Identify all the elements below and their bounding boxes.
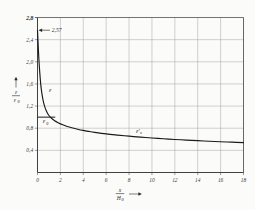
y-tick-label: 1,2: [26, 103, 33, 109]
y-tick-label: 0,4: [26, 147, 33, 153]
peak-value-label: 2,57: [52, 27, 62, 33]
x-tick-label: 10: [149, 177, 155, 183]
x-tick-label: 12: [172, 177, 178, 183]
x-tick-label: 4: [82, 177, 85, 183]
x-tick-label: 0: [36, 177, 39, 183]
y-tick-label: 0,8: [26, 125, 33, 131]
y-tick-label: 2,0: [26, 59, 33, 65]
y-tick-label: 2,8: [26, 15, 33, 21]
x-tick-label: 18: [241, 177, 247, 183]
y-tick-label: 2,4: [26, 37, 33, 43]
chart-canvas: 024681012141618 0,40,81,21,62,02,42,82,8…: [0, 0, 255, 210]
epsilon-x-label-subscript: x: [139, 130, 142, 135]
y-tick-label: 1,6: [26, 81, 33, 87]
x-tick-label: 6: [105, 177, 108, 183]
x-tick-label: 8: [128, 177, 131, 183]
x-axis-numerator: x: [118, 187, 122, 193]
x-tick-label: 14: [195, 177, 201, 183]
x-tick-label: 2: [59, 177, 62, 183]
x-tick-label: 16: [218, 177, 224, 183]
figure-container: 024681012141618 0,40,81,21,62,02,42,82,8…: [0, 0, 255, 210]
